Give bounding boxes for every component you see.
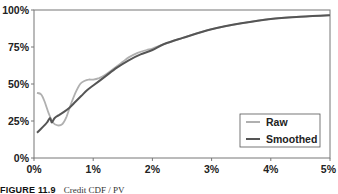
y-tick-label: 50%	[8, 78, 30, 90]
y-tick-label: 25%	[8, 115, 30, 127]
figure-caption: FIGURE 11.9Credit CDF / PV	[0, 185, 125, 194]
x-tick-label: 1%	[86, 163, 102, 175]
chart: 0%25%50%75%100% 0%1%2%3%4%5% Raw Smoothe…	[0, 0, 338, 182]
y-tick-label: 100%	[2, 4, 30, 16]
figure-label: FIGURE 11.9	[0, 185, 56, 194]
y-axis-ticks: 0%25%50%75%100%	[2, 4, 34, 164]
legend: Raw Smoothed	[240, 114, 320, 147]
legend-label-smoothed: Smoothed	[266, 133, 317, 145]
legend-label-raw: Raw	[266, 116, 288, 128]
x-tick-label: 5%	[321, 163, 337, 175]
figure-caption-text: Credit CDF / PV	[64, 185, 125, 194]
x-tick-label: 3%	[204, 163, 220, 175]
y-tick-label: 75%	[8, 41, 30, 53]
x-axis-ticks: 0%1%2%3%4%5%	[26, 158, 336, 175]
x-tick-label: 0%	[26, 163, 42, 175]
x-tick-label: 2%	[145, 163, 161, 175]
series-line-raw	[37, 15, 330, 125]
x-tick-label: 4%	[263, 163, 279, 175]
